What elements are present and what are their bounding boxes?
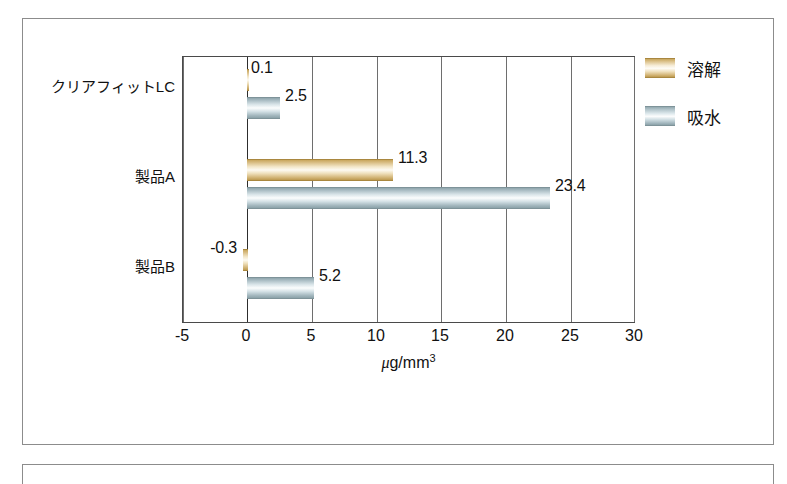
xtick-label-5: 20 bbox=[485, 327, 525, 345]
bar-dissolve-0[interactable] bbox=[247, 69, 249, 91]
legend-swatch-absorb-icon bbox=[645, 106, 675, 126]
xtick-label-4: 15 bbox=[420, 327, 460, 345]
xtick-label-2: 5 bbox=[291, 327, 331, 345]
value-label-absorb-1: 23.4 bbox=[555, 177, 585, 195]
bar-dissolve-1[interactable] bbox=[247, 159, 393, 181]
bar-absorb-0[interactable] bbox=[247, 97, 280, 119]
xtick-label-1: 0 bbox=[226, 327, 266, 345]
xtick-label-3: 10 bbox=[356, 327, 396, 345]
bar-absorb-1[interactable] bbox=[247, 187, 550, 209]
value-label-dissolve-0: 0.1 bbox=[251, 59, 273, 77]
value-label-absorb-0: 2.5 bbox=[285, 87, 307, 105]
bar-absorb-2[interactable] bbox=[247, 277, 314, 299]
legend-item-absorb[interactable]: 吸水 bbox=[645, 99, 763, 133]
legend-label-absorb: 吸水 bbox=[687, 104, 721, 129]
category-label-0: クリアフィットLC bbox=[23, 79, 175, 96]
chart-legend: 溶解 吸水 bbox=[645, 51, 763, 147]
value-label-absorb-2: 5.2 bbox=[319, 267, 341, 285]
gridline-minus5 bbox=[183, 57, 184, 322]
category-label-2: 製品B bbox=[23, 259, 175, 276]
legend-swatch-dissolve-icon bbox=[645, 58, 675, 78]
figure-outer-frame: クリアフィットLC 製品A 製品B 0.1 2.5 11.3 23.4 -0.3… bbox=[22, 18, 774, 445]
axis-title-superscript: 3 bbox=[429, 352, 435, 364]
category-label-1: 製品A bbox=[23, 169, 175, 186]
legend-label-dissolve: 溶解 bbox=[687, 56, 721, 81]
legend-item-dissolve[interactable]: 溶解 bbox=[645, 51, 763, 85]
x-axis-title: μg/mm3 bbox=[182, 352, 635, 372]
figure-lower-frame bbox=[22, 464, 774, 484]
xtick-label-0: -5 bbox=[162, 327, 202, 345]
value-label-dissolve-1: 11.3 bbox=[398, 149, 427, 167]
bar-dissolve-2[interactable] bbox=[243, 249, 248, 271]
bar-chart: クリアフィットLC 製品A 製品B 0.1 2.5 11.3 23.4 -0.3… bbox=[23, 19, 775, 446]
xtick-label-7: 30 bbox=[614, 327, 654, 345]
value-label-dissolve-2: -0.3 bbox=[193, 239, 237, 257]
gridline-30 bbox=[634, 57, 635, 322]
xtick-label-6: 25 bbox=[550, 327, 590, 345]
axis-title-main: g/mm bbox=[389, 354, 429, 371]
